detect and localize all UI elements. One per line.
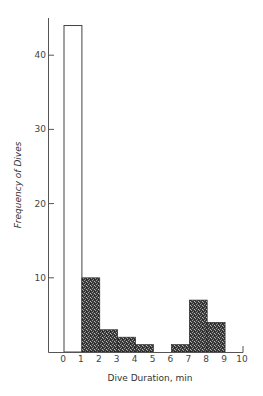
x-tick-label: 1	[78, 354, 84, 364]
x-tick-label: 4	[132, 354, 138, 364]
histogram-bar	[189, 300, 207, 352]
y-axis-ticks: 10203040	[35, 50, 54, 283]
histogram-bar	[136, 345, 154, 352]
histogram-bar	[82, 278, 100, 352]
x-tick-label: 10	[236, 354, 248, 364]
x-tick-label: 6	[168, 354, 174, 364]
histogram-bar	[118, 337, 136, 352]
y-tick-label: 10	[35, 273, 47, 283]
y-tick-label: 20	[35, 199, 47, 209]
x-axis-title: Dive Duration, min	[108, 373, 193, 383]
x-tick-label: 7	[185, 354, 191, 364]
histogram-bar	[207, 322, 225, 352]
histogram-bars	[64, 26, 225, 352]
histogram-bar	[171, 345, 189, 352]
x-tick-label: 2	[96, 354, 102, 364]
x-axis-ticks: 012345678910	[60, 354, 248, 364]
histogram-bar	[100, 330, 118, 352]
y-tick-label: 40	[35, 50, 47, 60]
x-tick-label: 0	[60, 354, 66, 364]
y-tick-label: 30	[35, 124, 47, 134]
x-tick-label: 8	[203, 354, 209, 364]
x-tick-label: 9	[221, 354, 227, 364]
histogram-chart: 10203040 012345678910 Dive Duration, min…	[0, 0, 263, 396]
histogram-bar	[64, 26, 82, 352]
x-tick-label: 5	[150, 354, 156, 364]
x-tick-label: 3	[114, 354, 120, 364]
y-axis-title: Frequency of Dives	[13, 141, 23, 228]
